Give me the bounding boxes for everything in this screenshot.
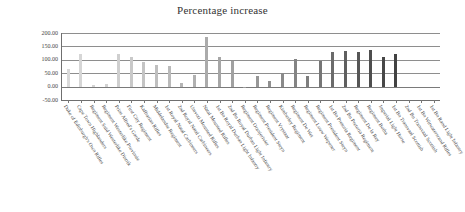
- y-tick-label: 100.00: [2, 56, 58, 62]
- bar: [67, 69, 70, 86]
- bar: [105, 84, 108, 86]
- y-tick-label: 50.00: [2, 70, 58, 76]
- y-axis-tick-labels: 200.00150.00100.0050.000.00-50.00: [0, 33, 58, 101]
- gridline-0.00: [62, 87, 440, 88]
- x-axis-category-labels: Duke of Edinburgh's Own RiflesCape Town …: [62, 104, 445, 212]
- bar: [319, 61, 322, 86]
- bar: [331, 52, 334, 87]
- bar: [256, 76, 259, 87]
- x-tick: [295, 100, 296, 103]
- x-tick: [131, 100, 132, 103]
- bar: [382, 57, 385, 86]
- bar: [180, 83, 183, 86]
- x-tick: [144, 100, 145, 103]
- bar: [357, 52, 360, 86]
- bar: [205, 37, 208, 87]
- bar: [193, 75, 196, 87]
- bar: [243, 87, 246, 88]
- bar: [394, 54, 397, 87]
- x-tick: [270, 100, 271, 103]
- bar: [92, 85, 95, 86]
- bar: [268, 81, 271, 87]
- x-tick: [207, 100, 208, 103]
- bar: [281, 73, 284, 87]
- bar: [168, 66, 171, 87]
- x-tick: [257, 100, 258, 103]
- x-tick: [358, 100, 359, 103]
- x-tick: [396, 100, 397, 103]
- y-tick-label: 0.00: [2, 83, 58, 89]
- bar: [369, 50, 372, 86]
- bar: [294, 59, 297, 87]
- y-tick-label: 200.00: [2, 30, 58, 36]
- x-tick: [81, 100, 82, 103]
- bar: [130, 57, 133, 87]
- bar: [155, 65, 158, 86]
- chart-title: Percentage increase: [0, 4, 445, 16]
- bar: [117, 54, 120, 87]
- y-tick-label: 150.00: [2, 43, 58, 49]
- x-tick: [320, 100, 321, 103]
- x-tick: [106, 100, 107, 103]
- x-tick: [383, 100, 384, 103]
- gridline-150.00: [62, 46, 440, 47]
- bar: [306, 76, 309, 86]
- gridline-200.00: [62, 33, 440, 34]
- x-tick: [232, 100, 233, 103]
- bar: [218, 57, 221, 87]
- bar: [231, 61, 234, 86]
- plot-area: [62, 33, 440, 100]
- x-tick: [169, 100, 170, 103]
- x-tick: [68, 100, 69, 103]
- x-tick: [421, 100, 422, 103]
- x-tick: [194, 100, 195, 103]
- x-tick: [333, 100, 334, 103]
- y-tick-label: -50.00: [2, 97, 58, 103]
- bar: [344, 51, 347, 86]
- bar: [79, 54, 82, 86]
- bar: [142, 62, 145, 87]
